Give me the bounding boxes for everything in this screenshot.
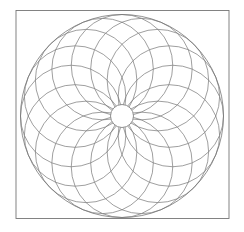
rosette-circle	[122, 65, 224, 167]
rosette-line-drawing	[0, 0, 244, 232]
center-circle	[111, 105, 134, 128]
rosette-circle	[21, 65, 123, 167]
rosette-circle	[71, 116, 173, 218]
rosette-circle	[71, 15, 173, 117]
drawing-canvas	[0, 0, 244, 232]
